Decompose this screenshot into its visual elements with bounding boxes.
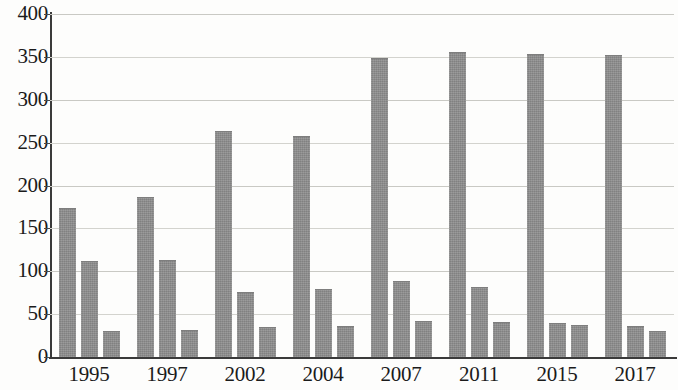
x-axis-tick-label: 1997: [128, 362, 206, 386]
y-axis-tick-labels: 050100150200250300350400: [0, 0, 48, 390]
y-axis-tickmark: [44, 228, 50, 229]
y-axis-tick-label: 200: [4, 175, 48, 196]
y-axis-tick-label: 250: [4, 132, 48, 153]
gridline: [50, 100, 674, 101]
bar: [549, 323, 566, 357]
x-axis-tick-label: 2007: [362, 362, 440, 386]
bar: [59, 208, 76, 357]
bar: [215, 131, 232, 357]
bar: [415, 321, 432, 357]
y-axis-tick-label: 300: [4, 89, 48, 110]
bar: [571, 325, 588, 357]
gridline: [50, 186, 674, 187]
y-axis-tick-label: 400: [4, 3, 48, 24]
y-axis-tickmark: [44, 314, 50, 315]
bar: [237, 292, 254, 357]
y-axis-tickmark: [44, 100, 50, 101]
x-axis-tick-label: 1995: [50, 362, 128, 386]
bar: [181, 330, 198, 357]
bar: [471, 287, 488, 357]
x-axis-tick-label: 2002: [206, 362, 284, 386]
bar: [605, 55, 622, 357]
y-axis-tickmark: [44, 186, 50, 187]
y-axis-tick-label: 100: [4, 260, 48, 281]
x-axis-tick-label: 2004: [284, 362, 362, 386]
y-axis-tickmark: [44, 357, 50, 358]
gridline: [50, 143, 674, 144]
gridline: [50, 57, 674, 58]
bar: [337, 326, 354, 357]
y-axis-tick-label: 150: [4, 217, 48, 238]
x-axis-tick-label: 2017: [596, 362, 674, 386]
bar: [159, 260, 176, 357]
y-axis-tickmark: [44, 14, 50, 15]
bar: [103, 331, 120, 357]
bar: [527, 54, 544, 357]
bar: [449, 52, 466, 357]
bar: [137, 197, 154, 357]
bar: [315, 289, 332, 357]
x-axis-tick-labels: 19951997200220042007201120152017: [50, 362, 674, 390]
bar: [393, 281, 410, 357]
bar: [371, 58, 388, 357]
plot-area: [50, 14, 674, 357]
bar: [81, 261, 98, 357]
bar: [493, 322, 510, 357]
x-axis-tick-label: 2015: [518, 362, 596, 386]
bar: [649, 331, 666, 357]
y-axis-tickmark: [44, 271, 50, 272]
gridline: [50, 14, 674, 15]
y-axis-tick-label: 350: [4, 46, 48, 67]
y-axis-tick-label: 0: [4, 346, 48, 367]
bar: [293, 136, 310, 357]
bar: [627, 326, 644, 357]
y-axis-tickmark: [44, 143, 50, 144]
y-axis-tick-label: 50: [4, 303, 48, 324]
x-axis-line: [49, 357, 677, 359]
bar-chart: 050100150200250300350400 199519972002200…: [0, 0, 678, 390]
y-axis-tickmark: [44, 57, 50, 58]
x-axis-tick-label: 2011: [440, 362, 518, 386]
bar: [259, 327, 276, 357]
